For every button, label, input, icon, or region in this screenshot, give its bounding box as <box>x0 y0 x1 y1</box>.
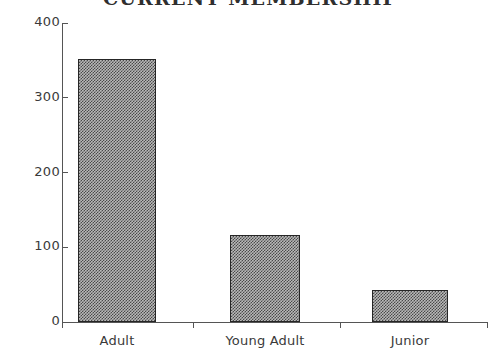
y-axis-tick-label: 400 <box>6 14 60 29</box>
bar-junior <box>372 290 448 322</box>
y-axis-tick-label-wrap: 100 <box>0 247 60 248</box>
x-axis-label-junior: Junior <box>330 333 490 348</box>
bar-adult <box>78 59 156 322</box>
y-axis-tick-label-wrap: 200 <box>0 173 60 174</box>
x-axis-tick-mark <box>487 322 488 328</box>
x-axis-line <box>62 322 488 323</box>
y-axis-tick-label-wrap: 400 <box>0 23 60 24</box>
y-axis-tick-label: 300 <box>6 89 60 104</box>
y-axis-tick-label: 200 <box>6 164 60 179</box>
y-axis-tick-mark <box>62 247 68 248</box>
x-axis-label-adult: Adult <box>37 333 197 348</box>
bar-chart-figure: CURRENT MEMBERSHIP 0100200300400 AdultYo… <box>0 0 501 364</box>
y-axis-tick-label-wrap: 0 <box>0 322 60 323</box>
y-axis-tick-mark <box>62 97 68 98</box>
y-axis-tick-mark <box>62 23 68 24</box>
x-axis-tick-mark <box>193 322 194 328</box>
y-axis-tick-label: 0 <box>6 313 60 328</box>
y-axis-line <box>62 23 63 323</box>
x-axis-label-young-adult: Young Adult <box>185 333 345 348</box>
x-axis-tick-mark <box>62 322 63 328</box>
x-axis-tick-mark <box>340 322 341 328</box>
bar-young-adult <box>230 235 300 322</box>
y-axis-tick-label-wrap: 300 <box>0 98 60 99</box>
y-axis-tick-label: 100 <box>6 238 60 253</box>
y-axis-tick-mark <box>62 172 68 173</box>
chart-title: CURRENT MEMBERSHIP <box>0 0 501 9</box>
